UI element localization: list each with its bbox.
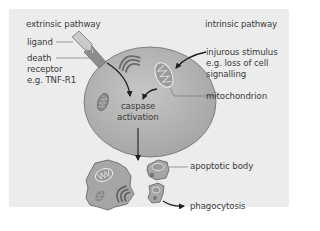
ligand-label: ligand (27, 37, 53, 47)
stimulus-label-1: injurous stimulus (206, 47, 278, 57)
caspase-label-2: activation (117, 112, 159, 122)
stimulus-label-3: signalling (206, 69, 246, 79)
death-receptor-label-2: receptor (27, 64, 62, 74)
caspase-label-1: caspase (121, 101, 155, 111)
stimulus-label-2: e.g. loss of cell (206, 58, 268, 68)
intrinsic-pathway-title: intrinsic pathway (205, 19, 277, 29)
mitochondrion-label: mitochondrion (206, 91, 267, 101)
apoptotic-body-icon (147, 160, 169, 180)
ligand-icon (72, 31, 92, 51)
phagocytosis-arrow (163, 201, 184, 206)
fragmented-cell-icon (86, 160, 134, 210)
extrinsic-pathway-title: extrinsic pathway (26, 19, 101, 29)
apoptotic-body-label: apoptotic body (190, 161, 253, 171)
death-receptor-label-1: death (27, 53, 51, 63)
apoptotic-body-2-icon (148, 183, 164, 203)
phagocytosis-label: phagocytosis (190, 201, 245, 211)
death-receptor-label-3: e.g. TNF-R1 (27, 75, 76, 85)
